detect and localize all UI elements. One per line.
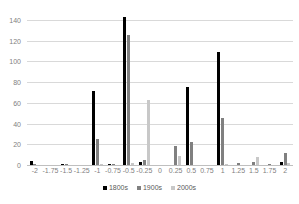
- bar-group: [262, 20, 278, 165]
- bar-group: [230, 20, 246, 165]
- bar: [186, 87, 189, 165]
- bar: [190, 142, 193, 165]
- bar: [174, 146, 177, 165]
- x-axis-tick-label: 0: [158, 167, 162, 174]
- x-axis-tick-label: -0.25: [136, 167, 152, 174]
- x-axis-tick-label: -0.5: [123, 167, 135, 174]
- legend-item[interactable]: 1800s: [103, 184, 128, 191]
- x-axis-tick-label: 0.25: [169, 167, 183, 174]
- legend-swatch-icon: [137, 186, 141, 190]
- x-axis-tick-label: 1.25: [231, 167, 245, 174]
- x-axis-tick-label: -1.25: [74, 167, 90, 174]
- bar-group: [277, 20, 293, 165]
- plot-area: [27, 20, 293, 165]
- chart-legend: 1800s1900s2000s: [0, 184, 299, 191]
- x-axis-tick-label: -1: [94, 167, 100, 174]
- bar-chart: 020406080100120140 -2-1.75-1.5-1.25-1-0.…: [0, 0, 299, 204]
- y-axis-tick-label: 60: [13, 99, 21, 106]
- bar-group: [137, 20, 153, 165]
- legend-item[interactable]: 2000s: [171, 184, 196, 191]
- bar-group: [74, 20, 90, 165]
- y-axis-tick-label: 40: [13, 120, 21, 127]
- x-axis-tick-label: -1.75: [42, 167, 58, 174]
- bar: [123, 17, 126, 165]
- bar-group: [43, 20, 59, 165]
- bar: [65, 164, 68, 165]
- bar: [127, 35, 130, 166]
- y-axis-tick-label: 0: [17, 162, 21, 169]
- bar: [143, 160, 146, 165]
- axis-baseline: [27, 165, 293, 166]
- bar: [280, 162, 283, 165]
- legend-label: 2000s: [177, 184, 196, 191]
- bar: [237, 163, 240, 165]
- bar: [147, 100, 150, 165]
- x-axis: -2-1.75-1.5-1.25-1-0.75-0.5-0.2500.250.5…: [27, 167, 293, 179]
- bar-groups: [27, 20, 293, 165]
- bar: [112, 164, 115, 165]
- y-axis-tick-label: 20: [13, 141, 21, 148]
- bar: [30, 161, 33, 165]
- x-axis-tick-label: 1: [221, 167, 225, 174]
- bar: [256, 157, 259, 165]
- x-axis-tick-label: 1.75: [263, 167, 277, 174]
- x-axis-tick-label: -0.75: [105, 167, 121, 174]
- x-axis-tick-label: -1.5: [60, 167, 72, 174]
- bar-group: [27, 20, 43, 165]
- y-axis-tick-label: 120: [9, 37, 21, 44]
- legend-swatch-icon: [171, 186, 175, 190]
- bar: [225, 164, 228, 165]
- x-axis-tick-label: 2: [283, 167, 287, 174]
- bar: [96, 139, 99, 165]
- legend-item[interactable]: 1900s: [137, 184, 162, 191]
- bar-group: [199, 20, 215, 165]
- bar-group: [105, 20, 121, 165]
- legend-label: 1800s: [109, 184, 128, 191]
- bar: [131, 163, 134, 165]
- bar-group: [152, 20, 168, 165]
- bar-group: [121, 20, 137, 165]
- bar: [178, 156, 181, 165]
- bar: [221, 118, 224, 165]
- bar: [139, 162, 142, 165]
- bar: [284, 153, 287, 165]
- bar: [287, 163, 290, 165]
- y-axis-tick-label: 100: [9, 58, 21, 65]
- bar: [268, 164, 271, 165]
- bar-group: [246, 20, 262, 165]
- x-axis-tick-label: 1.5: [249, 167, 259, 174]
- y-axis-tick-label: 140: [9, 17, 21, 24]
- bar-group: [168, 20, 184, 165]
- bar: [100, 164, 103, 165]
- x-axis-tick-label: -2: [32, 167, 38, 174]
- bar: [92, 91, 95, 165]
- bar-group: [90, 20, 106, 165]
- y-axis: 020406080100120140: [0, 20, 24, 165]
- y-axis-tick-label: 80: [13, 79, 21, 86]
- bar-group: [183, 20, 199, 165]
- bar-group: [215, 20, 231, 165]
- bar: [108, 164, 111, 165]
- legend-label: 1900s: [143, 184, 162, 191]
- bar: [217, 52, 220, 165]
- legend-swatch-icon: [103, 186, 107, 190]
- x-axis-tick-label: 0.5: [186, 167, 196, 174]
- bar: [252, 162, 255, 165]
- bar: [33, 164, 36, 165]
- x-axis-tick-label: 0.75: [200, 167, 214, 174]
- bar: [61, 164, 64, 165]
- bar-group: [58, 20, 74, 165]
